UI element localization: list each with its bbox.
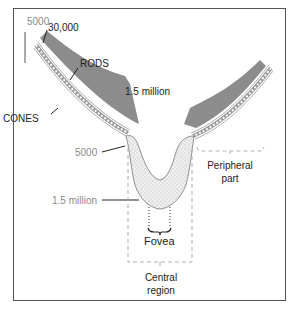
peripheral-bracket: [197, 147, 264, 151]
label-5000-fovea: 5000: [75, 147, 97, 158]
fovea-brace: [148, 228, 171, 235]
label-30000: 30,000: [48, 22, 79, 33]
label-central-region: Central region: [131, 272, 191, 296]
label-peripheral-part: Peripheral part: [200, 160, 260, 184]
label-peripheral-line2: part: [200, 173, 260, 184]
label-central-line2: region: [131, 285, 191, 296]
leader-cones: [51, 108, 58, 114]
label-cones: CONES: [3, 113, 39, 124]
label-rods-total: 1.5 million: [125, 86, 170, 97]
label-rods: RODS: [80, 58, 109, 69]
label-central-line1: Central: [131, 272, 191, 283]
label-peripheral-line1: Peripheral: [200, 160, 260, 171]
fovea-pit: [126, 136, 194, 209]
label-1-5-million-fovea: 1.5 million: [52, 195, 97, 206]
leader-5000-fovea: [102, 146, 125, 152]
label-fovea: Fovea: [144, 236, 175, 247]
label-5000-top: 5000: [27, 16, 49, 27]
retina-diagram: [0, 0, 297, 311]
